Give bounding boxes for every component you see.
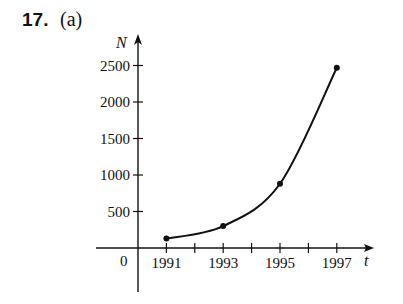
origin-label: 0 bbox=[120, 253, 128, 269]
data-curve bbox=[166, 68, 336, 239]
line-chart: Nt050010001500200025001991199319951997 bbox=[0, 0, 403, 304]
x-axis-label: t bbox=[364, 252, 369, 269]
y-tick-label: 1500 bbox=[100, 131, 130, 147]
data-point bbox=[334, 65, 340, 71]
y-tick-label: 2500 bbox=[100, 58, 130, 74]
x-tick-label: 1991 bbox=[151, 255, 181, 271]
y-tick-label: 2000 bbox=[100, 94, 130, 110]
x-tick-label: 1997 bbox=[322, 255, 353, 271]
y-tick-label: 500 bbox=[108, 204, 131, 220]
x-tick-label: 1993 bbox=[208, 255, 238, 271]
x-tick-label: 1995 bbox=[265, 255, 295, 271]
y-tick-label: 1000 bbox=[100, 167, 130, 183]
data-point bbox=[220, 223, 226, 229]
data-point bbox=[163, 236, 169, 242]
data-point bbox=[277, 181, 283, 187]
y-axis-label: N bbox=[115, 34, 128, 51]
